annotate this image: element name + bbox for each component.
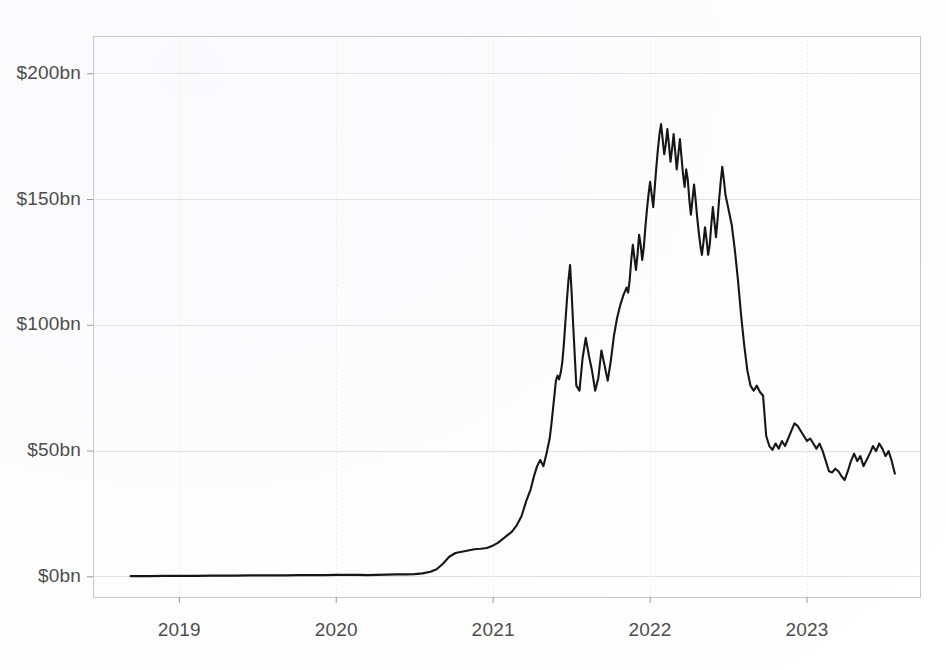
line-chart-figure: $0bn$50bn$100bn$150bn$200bn 201920202021… — [0, 0, 946, 670]
y-axis-tick-label: $50bn — [27, 439, 81, 461]
data-series-layer — [131, 124, 895, 576]
y-axis-tick-label: $0bn — [38, 565, 81, 587]
plot-frame — [93, 36, 920, 597]
y-axis-tick-label: $200bn — [16, 62, 81, 84]
y-axis-tick-label: $100bn — [16, 313, 81, 335]
axis-frame — [93, 36, 920, 597]
x-axis-tick-label: 2021 — [443, 619, 543, 641]
chart-svg — [0, 0, 946, 670]
axis-ticks — [87, 74, 807, 603]
y-axis-tick-label: $150bn — [16, 188, 81, 210]
x-axis-tick-label: 2020 — [286, 619, 386, 641]
gridlines — [93, 36, 920, 597]
x-axis-tick-label: 2019 — [129, 619, 229, 641]
x-axis-tick-label: 2023 — [757, 619, 857, 641]
data-line — [131, 124, 895, 576]
x-axis-tick-label: 2022 — [600, 619, 700, 641]
